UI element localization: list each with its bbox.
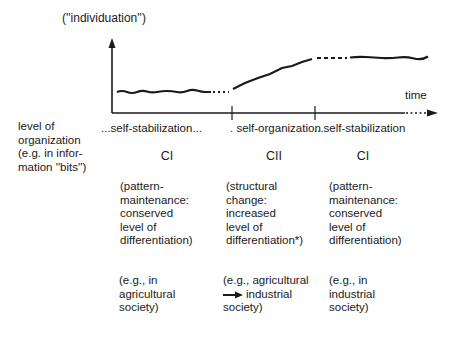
x-axis-arrow-icon [427, 110, 438, 117]
phase-2-process: . self-organization [230, 122, 321, 136]
phase-1-code: CI [147, 150, 187, 164]
y-axis-arrow-icon [109, 38, 116, 48]
phase-3-description: (pattern- maintenance: conserved level o… [329, 180, 402, 248]
level-of-organization-label: level of organization (e.g. in infor- ma… [18, 120, 86, 174]
phase-2-example: (e.g., agricultural industrial society) [223, 274, 309, 315]
phase-3-code: CI [343, 150, 383, 164]
phase-2-code: CII [254, 150, 294, 164]
curve-phase-1 [117, 90, 211, 93]
x-axis-label: time [405, 89, 427, 103]
phase-1-example: (e.g., in agricultural society) [119, 274, 175, 315]
phase-3-example: (e.g., in industrial society) [329, 274, 375, 315]
phase-2-description: (structural change: increased level of d… [226, 180, 303, 248]
right-arrow-icon [223, 291, 243, 299]
curve-phase-2 [233, 59, 312, 89]
phase-3-process: ...self-stabilization [314, 122, 405, 136]
x-axis [112, 106, 438, 120]
y-axis-label: (''individuation'') [62, 12, 146, 26]
phase-1-description: (pattern- maintenance: conserved level o… [120, 180, 193, 248]
y-axis [109, 38, 116, 113]
curve-phase-3 [350, 57, 428, 60]
phase-1-process: ...self-stabilization... [101, 122, 202, 136]
